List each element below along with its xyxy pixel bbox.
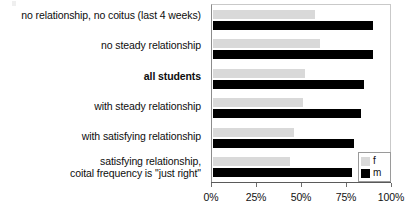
bar-group [213,123,389,153]
category-label-line: satisfying relationship, [70,155,201,167]
x-axis-tick-label: 0% [186,191,236,203]
bar-f [213,69,305,78]
bar-m [213,21,373,30]
x-axis-tick-label: 75% [321,191,371,203]
x-axis-tick [256,183,257,187]
x-axis-tick-label: 50% [276,191,326,203]
bar-group [213,35,389,65]
category-label-all-students: all students [0,61,207,91]
bar-m [213,168,352,177]
bar-m [213,80,364,89]
bar-m [213,109,361,118]
x-axis-tick-label: 100% [366,191,416,203]
x-axis-tick-labels: 0%25%50%75%100% [186,191,416,207]
bar-chart: no relationship, no coitus (last 4 weeks… [0,0,416,217]
legend-swatch-icon [361,157,370,166]
category-axis: no relationship, no coitus (last 4 weeks… [0,0,207,182]
category-label: with steady relationship [0,91,207,121]
bar-f [213,98,303,107]
category-label-line: with satisfying relationship [82,130,201,142]
category-label: no relationship, no coitus (last 4 weeks… [0,0,207,30]
category-label-multiline: satisfying relationship, coital frequenc… [70,155,201,179]
bar-m [213,139,354,148]
x-axis-tick [301,183,302,187]
bar-f [213,128,294,137]
category-label-line: no steady relationship [101,39,201,51]
legend-label: m [373,168,381,178]
category-label: satisfying relationship, coital frequenc… [0,152,207,182]
legend-entry-m: m [361,167,388,179]
bar-group [213,5,389,35]
category-label-line: coital frequency is "just right" [70,167,201,179]
bar-group [213,94,389,124]
bar-f [213,157,290,166]
legend-entry-f: f [361,155,388,167]
category-label-line: with steady relationship [94,100,201,112]
bar-m [213,50,373,59]
x-axis-tick [211,183,212,187]
x-axis-tick [346,183,347,187]
bar-f [213,10,315,19]
category-label-line: all students [144,70,201,82]
bar-f [213,39,320,48]
legend-label: f [373,156,376,166]
legend-swatch-icon [361,169,370,178]
chart-legend: f m [358,152,391,182]
category-label-line: no relationship, no coitus (last 4 weeks… [21,9,201,21]
x-axis-tick [391,183,392,187]
category-label: with satisfying relationship [0,121,207,151]
category-label: no steady relationship [0,30,207,60]
x-axis-tick-label: 25% [231,191,281,203]
bar-group [213,64,389,94]
